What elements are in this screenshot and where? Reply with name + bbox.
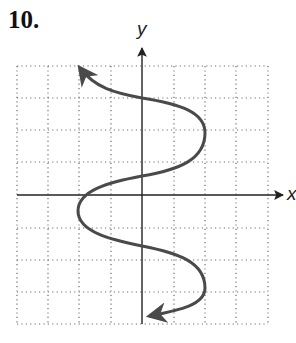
axes (17, 48, 283, 324)
graph (0, 0, 296, 343)
